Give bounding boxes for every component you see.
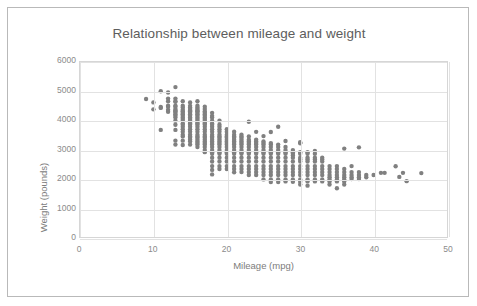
- scatter-point: [364, 175, 368, 179]
- scatter-point: [181, 99, 185, 103]
- scatter-point: [269, 152, 273, 156]
- scatter-point: [217, 159, 221, 163]
- scatter-point: [419, 171, 423, 175]
- x-axis-tick-label: 30: [280, 244, 320, 254]
- scatter-point: [254, 159, 258, 163]
- chart-container: Relationship between mileage and weight …: [7, 7, 469, 297]
- x-axis-tick-label: 20: [207, 244, 247, 254]
- scatter-point: [401, 171, 405, 175]
- scatter-point: [261, 134, 265, 138]
- scatter-point: [210, 172, 214, 176]
- scatter-point: [144, 97, 148, 101]
- gridline-horizontal: [80, 180, 447, 181]
- scatter-point: [239, 155, 243, 159]
- plot-area: [79, 61, 448, 238]
- scatter-point: [382, 171, 386, 175]
- scatter-point: [166, 99, 170, 103]
- scatter-point: [195, 99, 199, 103]
- scatter-point: [159, 105, 163, 109]
- scatter-point: [254, 152, 258, 156]
- scatter-point: [217, 152, 221, 156]
- scatter-point: [254, 173, 258, 177]
- scatter-point: [283, 173, 287, 177]
- gridline-vertical: [80, 62, 81, 237]
- scatter-point: [276, 173, 280, 177]
- scatter-point: [397, 175, 401, 179]
- scatter-point: [276, 155, 280, 159]
- x-axis-tick-label: 10: [133, 244, 173, 254]
- scatter-point: [217, 167, 221, 171]
- scatter-point: [210, 155, 214, 159]
- scatter-point: [269, 159, 273, 163]
- scatter-point: [210, 164, 214, 168]
- x-axis-tick-label: 40: [354, 244, 394, 254]
- scatter-point: [181, 143, 185, 147]
- y-axis-tick-label: 6000: [36, 56, 76, 65]
- scatter-point: [305, 159, 309, 163]
- gridline-vertical: [301, 62, 302, 237]
- scatter-point: [173, 139, 177, 143]
- scatter-point: [247, 155, 251, 159]
- gridline-horizontal: [80, 151, 447, 152]
- scatter-point: [349, 164, 353, 168]
- scatter-point: [210, 168, 214, 172]
- gridline-horizontal: [80, 92, 447, 93]
- scatter-point: [276, 152, 280, 156]
- scatter-point: [291, 155, 295, 159]
- scatter-point: [210, 152, 214, 156]
- scatter-point: [305, 152, 309, 156]
- scatter-point: [247, 152, 251, 156]
- scatter-point: [283, 155, 287, 159]
- scatter-point: [254, 130, 258, 134]
- scatter-point: [232, 155, 236, 159]
- y-axis-tick-label: 5000: [36, 86, 76, 95]
- scatter-point: [166, 110, 170, 114]
- scatter-point: [217, 155, 221, 159]
- scatter-point: [232, 152, 236, 156]
- scatter-point: [283, 139, 287, 143]
- scatter-point: [247, 159, 251, 163]
- scatter-point: [357, 145, 361, 149]
- scatter-point: [283, 159, 287, 163]
- scatter-point: [210, 159, 214, 163]
- y-axis-tick-label: 4000: [36, 115, 76, 124]
- scatter-point: [261, 173, 265, 177]
- scatter-point: [393, 164, 397, 168]
- scatter-point: [269, 130, 273, 134]
- x-axis-title: Mileage (mpg): [79, 260, 448, 271]
- gridline-horizontal: [80, 210, 447, 211]
- scatter-point: [335, 186, 339, 190]
- gridline-horizontal: [80, 239, 447, 240]
- scatter-point: [173, 85, 177, 89]
- scatter-point: [305, 183, 309, 187]
- scatter-point: [232, 159, 236, 163]
- scatter-point: [239, 170, 243, 174]
- scatter-point: [261, 155, 265, 159]
- scatter-point: [188, 142, 192, 146]
- scatter-point: [159, 128, 163, 132]
- scatter-point: [313, 159, 317, 163]
- scatter-point: [181, 134, 185, 138]
- scatter-point: [247, 173, 251, 177]
- scatter-point: [283, 152, 287, 156]
- scatter-point: [313, 152, 317, 156]
- scatter-point: [181, 139, 185, 143]
- y-axis-title-wrapper: Weight (pounds): [22, 61, 36, 238]
- scatter-point: [261, 159, 265, 163]
- scatter-point: [269, 155, 273, 159]
- x-axis-tick-labels: 01020304050: [79, 244, 448, 258]
- scatter-point: [291, 173, 295, 177]
- scatter-point: [269, 173, 273, 177]
- scatter-point: [276, 125, 280, 129]
- x-axis-tick-label: 50: [428, 244, 468, 254]
- scatter-point: [342, 182, 346, 186]
- scatter-point: [195, 145, 199, 149]
- chart-title: Relationship between mileage and weight: [8, 26, 470, 41]
- y-axis-title: Weight (pounds): [38, 138, 49, 258]
- gridline-vertical: [154, 62, 155, 237]
- gridline-horizontal: [80, 121, 447, 122]
- scatter-point: [173, 142, 177, 146]
- gridline-vertical: [375, 62, 376, 237]
- gridline-vertical: [228, 62, 229, 237]
- scatter-point: [232, 170, 236, 174]
